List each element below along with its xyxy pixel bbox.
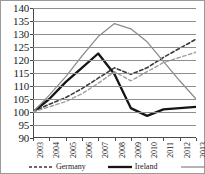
y-tick-label: 140 xyxy=(13,3,29,14)
legend-label-germany: Germany xyxy=(56,162,86,171)
gridline xyxy=(33,21,196,22)
gridline xyxy=(33,125,196,126)
x-tick-label: 2006 xyxy=(86,142,94,158)
y-axis: 9095100105110115120125130135140 xyxy=(1,1,33,138)
gridline xyxy=(33,86,196,87)
x-tick-mark xyxy=(82,138,83,141)
x-tick-mark xyxy=(49,138,50,141)
chart-legend: Germany Ireland Greece xyxy=(1,159,205,174)
x-tick-label: 2013 xyxy=(200,142,205,158)
x-tick-mark xyxy=(163,138,164,141)
y-tick-label: 105 xyxy=(13,94,29,105)
series-line-ireland xyxy=(33,54,196,116)
gridline xyxy=(33,47,196,48)
x-tick-mark xyxy=(131,138,132,141)
y-tick-label: 135 xyxy=(13,16,29,27)
y-tick-label: 120 xyxy=(13,55,29,66)
plot-area xyxy=(33,8,196,138)
gridline xyxy=(33,60,196,61)
legend-label-ireland: Ireland xyxy=(135,162,158,171)
chart-figure: 9095100105110115120125130135140 20032004… xyxy=(0,0,205,174)
gridline xyxy=(33,112,196,113)
x-tick-label: 2003 xyxy=(37,142,45,158)
x-tick-label: 2004 xyxy=(53,142,61,158)
x-tick-label: 2010 xyxy=(151,142,159,158)
gridline xyxy=(33,99,196,100)
y-tick-label: 125 xyxy=(13,42,29,53)
gridline xyxy=(33,73,196,74)
y-tick-label: 115 xyxy=(14,68,30,79)
x-tick-label: 2009 xyxy=(135,142,143,158)
legend-item-ireland: Ireland xyxy=(108,162,158,171)
y-tick-label: 130 xyxy=(13,29,29,40)
x-tick-mark xyxy=(147,138,148,141)
series-line xyxy=(33,52,196,112)
legend-swatch-ireland xyxy=(108,164,132,170)
legend-swatch-greece xyxy=(181,164,205,170)
gridline xyxy=(33,8,196,9)
x-tick-mark xyxy=(115,138,116,141)
y-tick-label: 110 xyxy=(14,81,30,92)
x-tick-label: 2005 xyxy=(70,142,78,158)
y-tick-label: 95 xyxy=(18,120,29,131)
x-tick-mark xyxy=(180,138,181,141)
x-tick-mark xyxy=(66,138,67,141)
y-tick-label: 90 xyxy=(18,133,29,144)
x-tick-mark xyxy=(98,138,99,141)
x-tick-mark xyxy=(196,138,197,141)
x-tick-mark xyxy=(33,138,34,141)
legend-item-germany: Germany xyxy=(29,162,86,171)
legend-swatch-germany xyxy=(29,164,53,170)
x-axis: 2003200420052006200720082009201020112012… xyxy=(33,138,196,160)
x-tick-label: 2008 xyxy=(119,142,127,158)
x-tick-label: 2012 xyxy=(184,142,192,158)
legend-item-greece: Greece xyxy=(181,162,205,171)
y-tick-label: 100 xyxy=(13,107,29,118)
gridline xyxy=(33,34,196,35)
x-tick-label: 2007 xyxy=(102,142,110,158)
x-tick-label: 2011 xyxy=(167,142,175,158)
